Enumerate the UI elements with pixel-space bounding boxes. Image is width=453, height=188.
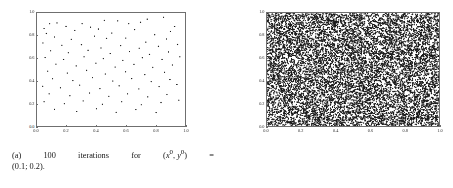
y-tick-label: 1.0 [259, 10, 264, 14]
y-tick-label: 0.4 [29, 79, 34, 83]
y-tick-label: 0.8 [29, 33, 34, 37]
figure-container: 0.00.20.40.60.81.00.00.20.40.60.81.0 (a)… [0, 0, 453, 188]
y-tick-mark [266, 81, 268, 82]
subfigure-b: 0.00.20.40.60.81.00.00.20.40.60.81.0 (b)… [226, 0, 452, 188]
y-tick-mark [266, 104, 268, 105]
plot-a-area: 0.00.20.40.60.81.00.00.20.40.60.81.0 [36, 12, 186, 127]
x-tick-label: 0.4 [333, 129, 338, 133]
x-tick-label: 0.0 [33, 129, 38, 133]
y-tick-mark [36, 35, 38, 36]
scatter-plot-b [267, 13, 439, 126]
scatter-plot-a [37, 13, 185, 126]
x-tick-label: 0.6 [368, 129, 373, 133]
y-tick-mark [36, 81, 38, 82]
x-tick-label: 0.6 [123, 129, 128, 133]
plot-a-frame [36, 12, 186, 127]
caption-a-iterations: iterations [78, 150, 109, 162]
plot-b-frame [266, 12, 440, 127]
x-tick-label: 0.8 [403, 129, 408, 133]
y-tick-mark [266, 58, 268, 59]
caption-a-math: (x0, y0) [163, 146, 187, 161]
x-tick-label: 0.4 [93, 129, 98, 133]
x-tick-label: 0.2 [63, 129, 68, 133]
y-tick-label: 0.4 [259, 79, 264, 83]
y-tick-mark [266, 35, 268, 36]
x-tick-label: 0.8 [153, 129, 158, 133]
x-tick-label: 1.0 [183, 129, 188, 133]
caption-a-values: (0.1; 0.2). [12, 161, 214, 173]
y-tick-mark [266, 12, 268, 13]
caption-a-sup-x: 0 [170, 148, 173, 155]
subfigure-a: 0.00.20.40.60.81.00.00.20.40.60.81.0 (a)… [0, 0, 226, 188]
y-tick-label: 0.6 [259, 56, 264, 60]
caption-a-tag: (a) [12, 150, 21, 162]
caption-a-sup-y: 0 [181, 148, 184, 155]
x-tick-label: 1.0 [437, 129, 442, 133]
y-tick-label: 0.6 [29, 56, 34, 60]
caption-a-count: 100 [43, 150, 55, 162]
plot-b-area: 0.00.20.40.60.81.00.00.20.40.60.81.0 [266, 12, 440, 127]
y-tick-label: 0.2 [259, 102, 264, 106]
caption-a-for: for [131, 150, 141, 162]
y-tick-mark [36, 12, 38, 13]
y-tick-mark [36, 104, 38, 105]
caption-a-equals: = [209, 150, 214, 162]
caption-a: (a) 100 iterations for (x0, y0) = (0.1; … [12, 146, 214, 173]
x-tick-label: 0.0 [263, 129, 268, 133]
y-tick-mark [36, 58, 38, 59]
y-tick-label: 1.0 [29, 10, 34, 14]
x-tick-label: 0.2 [298, 129, 303, 133]
y-tick-label: 0.2 [29, 102, 34, 106]
y-tick-label: 0.8 [259, 33, 264, 37]
